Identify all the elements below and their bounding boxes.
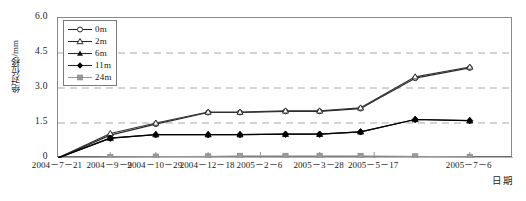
legend-item-0m[interactable]: 0m [67, 23, 112, 35]
legend-label-11m: 11m [93, 60, 111, 71]
legend-marker-filled-triangle-icon [67, 48, 93, 59]
x-axis-tick-labels: 2004－7－212004－9－92004－10－292004－12－18200… [0, 160, 526, 176]
data-point-24m-4 [237, 153, 242, 158]
legend-item-11m[interactable]: 11m [67, 59, 112, 71]
legend-item-6m[interactable]: 6m [67, 47, 112, 59]
legend-marker-filled-square-gray-icon [67, 72, 93, 83]
y-tick-4-5: 4.5 [16, 47, 48, 57]
chart-figure: 绝对位移/mm 6.0 4.5 3.0 1.5 0 2004－7－212004－… [0, 0, 526, 201]
series-line-2m [58, 67, 470, 158]
plot-area [57, 17, 512, 157]
legend-label-24m: 24m [93, 72, 112, 83]
series-line-6m [58, 120, 470, 159]
x-tick-label-5: 2005－3－28 [293, 160, 343, 171]
y-tick-6: 6.0 [16, 12, 48, 22]
data-point-24m-5 [283, 153, 288, 158]
x-axis-title: 日期 [492, 176, 514, 187]
legend-marker-open-circle-icon [67, 24, 93, 35]
data-point-24m-3 [206, 154, 211, 158]
x-tick-label-6: 2005－5－17 [348, 160, 398, 171]
data-point-24m-1 [108, 154, 113, 158]
data-point-24m-9 [467, 154, 472, 158]
data-point-24m-8 [413, 154, 418, 158]
x-tick-label-7: 2005－7－6 [446, 160, 492, 171]
legend-label-6m: 6m [93, 48, 107, 59]
chart-canvas [58, 18, 513, 158]
legend-item-2m[interactable]: 2m [67, 35, 112, 47]
x-tick-label-4: 2005－2－6 [237, 160, 283, 171]
x-tick-label-1: 2004－9－9 [86, 160, 132, 171]
series-line-11m [58, 120, 470, 159]
data-point-24m-6 [317, 153, 322, 158]
y-tick-3: 3.0 [16, 82, 48, 92]
chart-legend: 0m2m6m11m24m [63, 20, 117, 86]
legend-marker-open-triangle-icon [67, 36, 93, 47]
x-tick-label-2: 2004－10－29 [127, 160, 182, 171]
legend-marker-filled-diamond-icon [67, 60, 93, 71]
y-tick-1-5: 1.5 [16, 117, 48, 127]
x-tick-label-0: 2004－7－21 [32, 160, 82, 171]
legend-label-0m: 0m [93, 24, 107, 35]
data-point-24m-2 [153, 154, 158, 158]
data-point-24m-7 [358, 153, 363, 158]
legend-label-2m: 2m [93, 36, 107, 47]
legend-item-24m[interactable]: 24m [67, 71, 112, 83]
x-tick-label-3: 2004－12－18 [180, 160, 235, 171]
